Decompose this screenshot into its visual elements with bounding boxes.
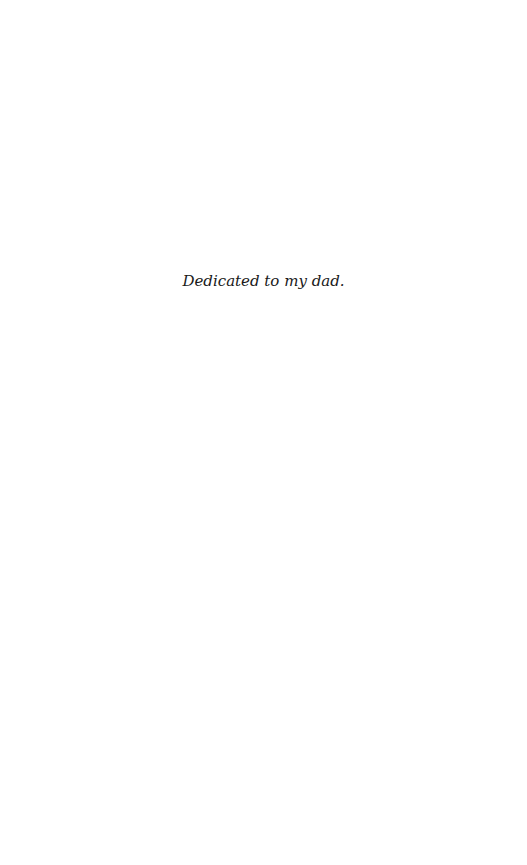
- book-page: Dedicated to my dad.: [0, 0, 527, 865]
- dedication-text: Dedicated to my dad.: [0, 271, 527, 291]
